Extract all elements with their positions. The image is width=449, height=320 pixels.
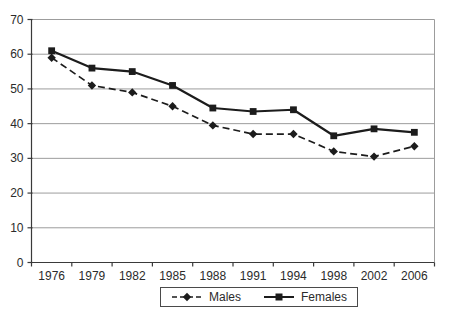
y-tick-label-0: 0 [17,256,24,270]
males-dashed-line-diamond-icon [171,292,203,302]
marker-diamond-males-1994 [289,130,297,138]
marker-square-females-2006 [411,129,418,136]
x-tick-label-1988: 1988 [199,269,226,283]
series-line-females [52,51,415,136]
legend-label-males: Males [209,290,241,304]
y-tick-label-70: 70 [10,13,24,27]
series-line-males [52,58,415,157]
marker-diamond-males-2006 [410,142,418,150]
x-tick-label-2006: 2006 [401,269,428,283]
x-tick-label-1998: 1998 [320,269,347,283]
marker-diamond-males-1998 [330,147,338,155]
chart-figure: 0102030405060701976197919821985198819911… [0,0,449,320]
legend-item-males: Males [171,290,241,304]
marker-square-females-1976 [48,47,55,54]
y-tick-label-50: 50 [10,82,24,96]
x-tick-label-1994: 1994 [280,269,307,283]
females-solid-line-square-icon [263,292,295,302]
y-tick-label-60: 60 [10,47,24,61]
y-tick-label-10: 10 [10,221,24,235]
x-tick-label-1991: 1991 [240,269,267,283]
marker-square-females-1979 [89,65,96,72]
legend-label-females: Females [301,290,347,304]
marker-square-females-1982 [129,68,136,75]
marker-diamond-males-1982 [128,88,136,96]
marker-diamond-males-1988 [209,121,217,129]
y-tick-label-20: 20 [10,186,24,200]
marker-diamond-males-1985 [168,102,176,110]
marker-square-females-1991 [250,108,257,115]
chart-legend: Males Females [160,287,358,307]
marker-square-females-1998 [330,132,337,139]
x-tick-label-1976: 1976 [38,269,65,283]
marker-square-females-1985 [169,82,176,89]
legend-item-females: Females [263,290,347,304]
x-tick-label-2002: 2002 [361,269,388,283]
marker-diamond-males-2002 [370,152,378,160]
x-tick-label-1985: 1985 [159,269,186,283]
marker-square-females-2002 [371,125,378,132]
x-tick-label-1979: 1979 [79,269,106,283]
line-chart-plot: 0102030405060701976197919821985198819911… [0,0,449,320]
y-tick-label-40: 40 [10,117,24,131]
marker-square-females-1994 [290,106,297,113]
y-tick-label-30: 30 [10,151,24,165]
marker-square-females-1988 [209,105,216,112]
x-tick-label-1982: 1982 [119,269,146,283]
marker-diamond-males-1991 [249,130,257,138]
